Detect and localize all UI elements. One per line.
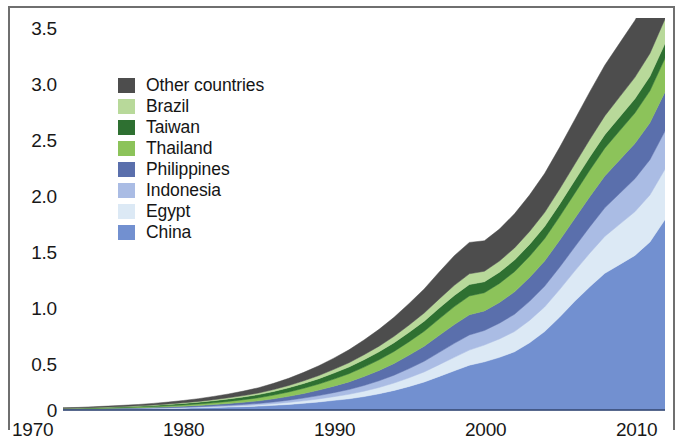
- legend-item-label: Egypt: [146, 203, 190, 221]
- legend-item-label: Other countries: [146, 77, 264, 95]
- legend-item-label: Philippines: [146, 161, 230, 179]
- legend-item-label: Thailand: [146, 140, 212, 158]
- stacked-area-chart: 3.5 3.0 2.5 2.0 1.5 1.0 0.5 0 1970 1980 …: [0, 0, 683, 445]
- legend-color-swatch: [118, 141, 135, 156]
- legend-color-swatch: [118, 225, 135, 240]
- legend-item-label: Indonesia: [146, 182, 221, 200]
- legend-item: Indonesia: [118, 181, 264, 200]
- legend-item: Thailand: [118, 139, 264, 158]
- legend-item-label: China: [146, 224, 191, 242]
- legend-item: China: [118, 223, 264, 242]
- legend-color-swatch: [118, 99, 135, 114]
- legend-item: Philippines: [118, 160, 264, 179]
- x-tick-label: 1990: [314, 420, 355, 439]
- legend-item: Other countries: [118, 76, 264, 95]
- x-tick-label: 2010: [616, 420, 657, 439]
- x-tick-label: 1980: [163, 420, 204, 439]
- legend-item-label: Taiwan: [146, 119, 200, 137]
- chart-legend: Other countriesBrazilTaiwanThailandPhili…: [118, 76, 264, 242]
- legend-color-swatch: [118, 162, 135, 177]
- x-axis-tick-labels: 1970 1980 1990 2000 2010: [0, 0, 683, 445]
- x-tick-label: 2000: [465, 420, 506, 439]
- legend-color-swatch: [118, 183, 135, 198]
- legend-color-swatch: [118, 78, 135, 93]
- legend-color-swatch: [118, 120, 135, 135]
- legend-item: Brazil: [118, 97, 264, 116]
- x-tick-label: 1970: [12, 420, 53, 439]
- legend-color-swatch: [118, 204, 135, 219]
- legend-item-label: Brazil: [146, 98, 189, 116]
- legend-item: Taiwan: [118, 118, 264, 137]
- legend-item: Egypt: [118, 202, 264, 221]
